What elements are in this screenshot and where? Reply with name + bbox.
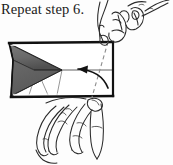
lower-hand-finger-1 — [97, 104, 103, 159]
origami-diagram — [0, 0, 173, 165]
lower-hand — [36, 98, 103, 164]
figure-canvas: Repeat step 6. — [0, 0, 173, 165]
top-edge — [9, 42, 113, 43]
upper-hand — [98, 0, 169, 45]
lower-hand-finger-1b — [90, 112, 97, 159]
bottom-edge — [11, 96, 113, 97]
upper-hand-wrist-edge — [128, 2, 146, 6]
upper-hand-finger-1b — [99, 0, 108, 38]
lower-hand-finger-4 — [37, 106, 56, 152]
paper-model — [9, 42, 113, 97]
upper-hand-finger-2 — [109, 12, 126, 42]
upper-hand-back-contour — [145, 0, 169, 11]
lower-hand-top-contour — [46, 98, 86, 103]
lower-hand-finger-3b — [56, 107, 77, 152]
